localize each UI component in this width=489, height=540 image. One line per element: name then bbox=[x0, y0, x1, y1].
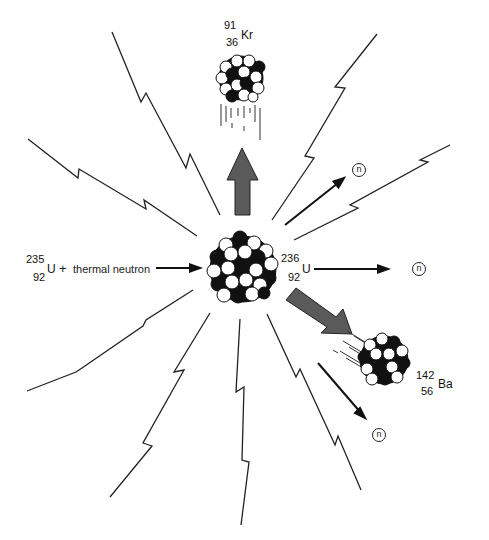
u235-mass-number: 235 bbox=[26, 254, 44, 265]
kr-isotope-label: 91 bbox=[224, 20, 236, 31]
bolt-top-right bbox=[272, 34, 377, 220]
kr-atomic-number: 36 bbox=[226, 37, 238, 48]
neutron-icon: n bbox=[352, 163, 366, 177]
ba-nucleus bbox=[358, 333, 410, 385]
bolt-upper-left bbox=[112, 32, 220, 215]
plus-sign: + bbox=[59, 262, 67, 275]
u236-atomic-number: 92 bbox=[288, 272, 300, 283]
bolt-bottom-left bbox=[110, 313, 210, 497]
bolt-bottom-right bbox=[267, 314, 361, 490]
bolt-left bbox=[28, 139, 197, 236]
thermal-neutron-label: thermal neutron bbox=[73, 264, 150, 275]
u236-symbol: U bbox=[302, 263, 311, 275]
ba-direction-arrow bbox=[286, 288, 352, 334]
neutron-icon: n bbox=[372, 428, 386, 442]
bolt-right bbox=[294, 145, 450, 240]
neutron-arrow-lower-right bbox=[318, 363, 361, 413]
kr-mass-number: 91 bbox=[224, 19, 236, 31]
u236-mass-number: 236 bbox=[281, 253, 299, 264]
kr-nucleus bbox=[216, 55, 265, 102]
bolt-lower-left bbox=[27, 290, 193, 391]
ba-atomic-number: 56 bbox=[421, 386, 433, 397]
neutron-arrows bbox=[156, 178, 388, 418]
u235-atomic-number: 92 bbox=[33, 272, 45, 283]
ba-symbol: Ba bbox=[438, 378, 453, 390]
bolt-bottom bbox=[236, 319, 249, 525]
neutron-icon: n bbox=[412, 262, 426, 276]
u235-symbol: U bbox=[47, 263, 56, 275]
ba-mass-number: 142 bbox=[416, 370, 434, 381]
kr-symbol: Kr bbox=[241, 29, 253, 41]
kr-direction-arrow bbox=[227, 148, 258, 215]
kr-motion-streaks bbox=[221, 104, 260, 140]
u236-nucleus bbox=[207, 231, 278, 303]
